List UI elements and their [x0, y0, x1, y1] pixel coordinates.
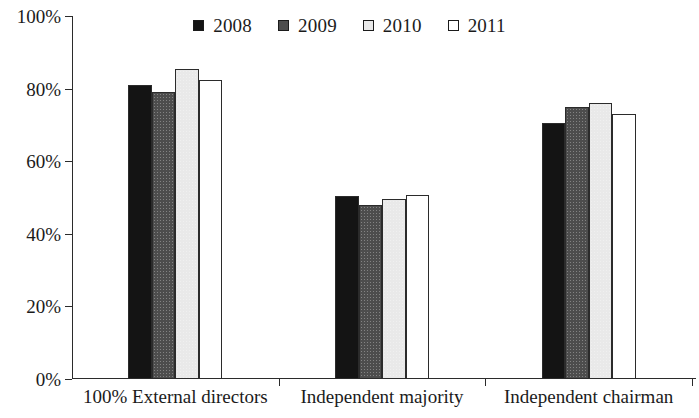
- category-labels: 100% External directorsIndependent major…: [72, 386, 692, 414]
- bar-2011-2[interactable]: [406, 195, 430, 379]
- bar-group: [335, 16, 429, 379]
- x-axis-category-label: 100% External directors: [83, 386, 268, 408]
- y-axis-line: [72, 16, 73, 379]
- bar-2008-1[interactable]: [128, 85, 152, 379]
- bar-2010-3[interactable]: [589, 103, 613, 379]
- y-axis-tick-label: 100%: [17, 7, 61, 26]
- bar-2008-2[interactable]: [335, 196, 359, 379]
- bar-chart: 2008200920102011 0%20%40%60%80%100% 100%…: [0, 0, 699, 418]
- y-axis-tick-label: 60%: [26, 152, 61, 171]
- y-axis-tick: [65, 306, 72, 307]
- bar-2008-3[interactable]: [542, 123, 566, 379]
- plot-area: 0%20%40%60%80%100%: [72, 16, 692, 379]
- bar-group-bars: [542, 16, 636, 379]
- bar-2009-2[interactable]: [359, 205, 383, 379]
- y-axis-tick: [65, 161, 72, 162]
- y-axis-tick-label: 80%: [26, 79, 61, 98]
- bar-group-bars: [128, 16, 222, 379]
- bar-2011-3[interactable]: [612, 114, 636, 379]
- y-axis-tick-label: 40%: [26, 224, 61, 243]
- x-axis-tick: [485, 379, 486, 386]
- y-axis-tick: [65, 234, 72, 235]
- bar-2009-1[interactable]: [152, 92, 176, 379]
- x-axis-category-label: Independent chairman: [504, 386, 673, 408]
- y-axis-tick: [65, 379, 72, 380]
- bar-2010-1[interactable]: [175, 69, 199, 379]
- bar-2010-2[interactable]: [382, 199, 406, 379]
- y-axis-tick: [65, 16, 72, 17]
- y-axis-tick-label: 20%: [26, 297, 61, 316]
- y-axis-tick-label: 0%: [36, 370, 61, 389]
- x-axis-tick: [692, 379, 693, 386]
- bar-2009-3[interactable]: [565, 107, 589, 379]
- bar-2011-1[interactable]: [199, 80, 223, 379]
- y-axis-tick: [65, 89, 72, 90]
- bar-group-bars: [335, 16, 429, 379]
- x-axis-tick: [279, 379, 280, 386]
- x-axis-category-label: Independent majority: [300, 386, 463, 408]
- bar-group: [542, 16, 636, 379]
- bar-group: [128, 16, 222, 379]
